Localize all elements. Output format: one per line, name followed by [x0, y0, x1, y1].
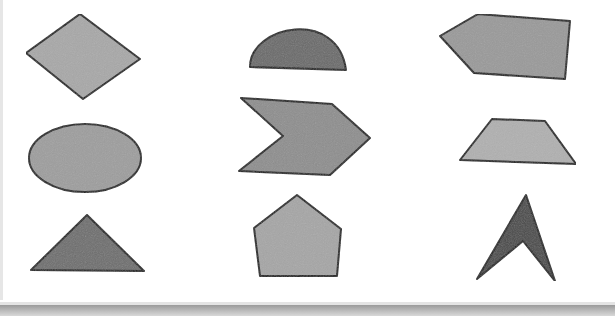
ellipse-shape [29, 124, 141, 192]
arrowhead-shape [477, 195, 555, 281]
semicircle-shape [250, 29, 346, 70]
rhombus-shape [26, 14, 140, 99]
shapes-worksheet [0, 0, 615, 316]
pentagon-arrow-left-shape [440, 14, 570, 79]
page-bottom-edge [0, 305, 615, 316]
pentagon-shape [254, 195, 341, 276]
triangle-shape [31, 215, 144, 271]
trapezoid-shape [460, 119, 576, 164]
chevron-shape [239, 98, 370, 175]
